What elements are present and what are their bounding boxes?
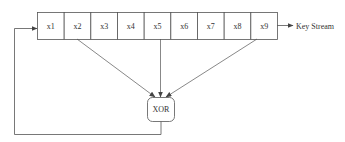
tap-arrow-x9 (166, 39, 257, 97)
register-cell-label: x4 (127, 22, 135, 31)
feedback-path (15, 29, 162, 135)
register-cell-label: x8 (234, 22, 242, 31)
xor-gate: XOR (148, 98, 175, 122)
tap-arrow-x2 (77, 39, 155, 97)
register-cell-label: x3 (100, 22, 108, 31)
register-cell-label: x9 (260, 22, 268, 31)
register-cell-label: x7 (207, 22, 215, 31)
register-cell-label: x2 (74, 22, 82, 31)
lfsr-diagram: x1x2x3x4x5x6x7x8x9 Key Stream XOR (0, 0, 345, 142)
key-stream-label: Key Stream (296, 22, 335, 31)
xor-label: XOR (153, 105, 171, 114)
shift-register: x1x2x3x4x5x6x7x8x9 (38, 13, 278, 40)
register-cell-label: x1 (47, 22, 55, 31)
register-cell-label: x6 (180, 22, 188, 31)
register-cell-label: x5 (154, 22, 162, 31)
